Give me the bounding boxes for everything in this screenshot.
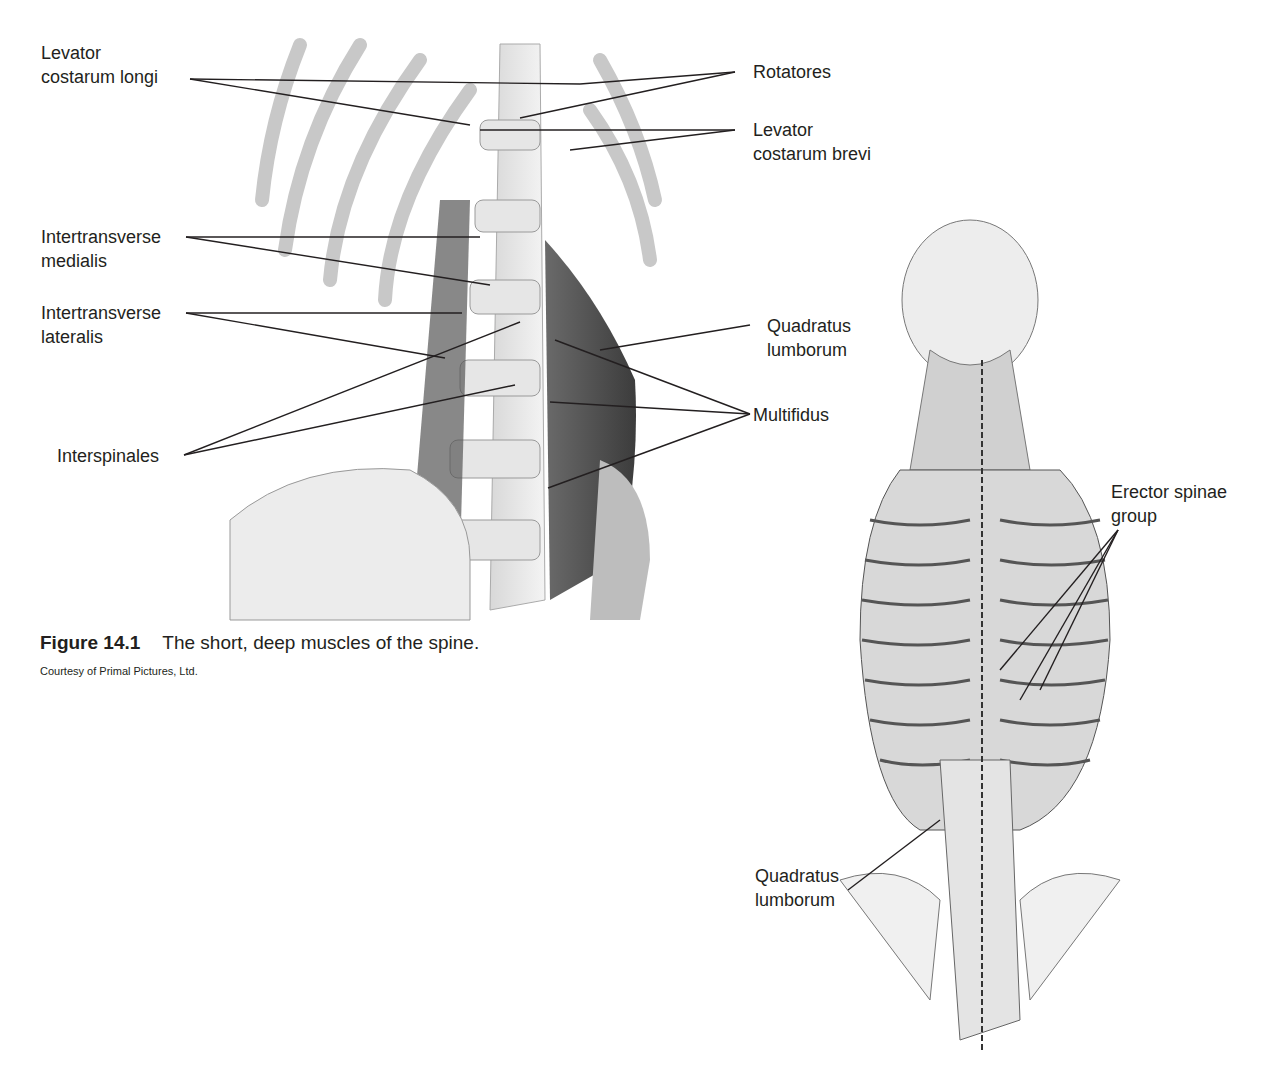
anatomy-illustrations <box>0 0 1287 1074</box>
figure-caption: Figure 14.1The short, deep muscles of th… <box>40 632 479 654</box>
left-spine-render <box>230 42 660 620</box>
label-levator-costarum-longi: Levator costarum longi <box>41 41 158 89</box>
right-back-illustration <box>840 220 1120 1050</box>
label-erector-spinae-group: Erector spinae group <box>1111 480 1227 528</box>
figure-number: Figure 14.1 <box>40 632 140 653</box>
label-intertransverse-medialis: Intertransverse medialis <box>41 225 161 273</box>
label-interspinales: Interspinales <box>57 444 159 468</box>
label-quadratus-lumborum-left: Quadratus lumborum <box>767 314 851 362</box>
label-intertransverse-lateralis: Intertransverse lateralis <box>41 301 161 349</box>
label-levator-costarum-brevi: Levator costarum brevi <box>753 118 871 166</box>
label-multifidus: Multifidus <box>753 403 829 427</box>
figure-credit: Courtesy of Primal Pictures, Ltd. <box>40 665 198 677</box>
figure-caption-text: The short, deep muscles of the spine. <box>162 632 479 653</box>
label-quadratus-lumborum-right: Quadratus lumborum <box>755 864 839 912</box>
label-rotatores: Rotatores <box>753 60 831 84</box>
